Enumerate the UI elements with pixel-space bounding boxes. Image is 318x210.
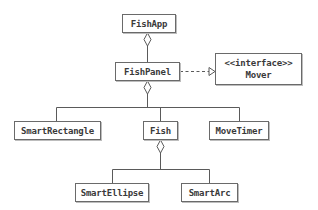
stereotype-label: <<interface>>: [225, 57, 293, 69]
class-box-fish: Fish: [143, 121, 178, 140]
class-box-smartellipse: SmartEllipse: [75, 183, 149, 202]
class-name: Mover: [245, 69, 271, 81]
class-name: SmartArc: [189, 187, 231, 199]
class-box-movetimer: MoveTimer: [209, 121, 269, 140]
class-name: FishPanel: [124, 66, 171, 78]
uml-class-diagram: FishApp FishPanel <<interface>> Mover Sm…: [0, 0, 318, 210]
class-name: MoveTimer: [216, 125, 263, 137]
class-name: Fish: [150, 125, 171, 137]
class-box-smartrectangle: SmartRectangle: [14, 121, 101, 140]
aggregation-diamond-icon: [144, 81, 151, 94]
class-name: FishApp: [131, 18, 168, 30]
class-name: SmartEllipse: [81, 187, 144, 199]
class-box-smartarc: SmartArc: [181, 183, 238, 202]
aggregation-diamond-icon: [157, 140, 164, 153]
class-name: SmartRectangle: [21, 125, 94, 137]
aggregation-diamond-icon: [144, 33, 151, 46]
class-box-fishapp: FishApp: [122, 14, 176, 33]
interface-box-mover: <<interface>> Mover: [215, 53, 302, 85]
class-box-fishpanel: FishPanel: [115, 62, 180, 81]
